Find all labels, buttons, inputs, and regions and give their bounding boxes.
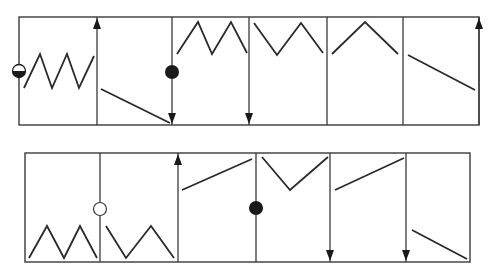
arrow-down-icon [245,113,253,124]
arrow-down-icon [326,250,334,261]
filled-dot-icon [249,201,263,215]
top-row [13,17,484,125]
waveform-zigzag-2-peaks [177,22,247,54]
waveform-diagram [0,0,496,275]
arrow-up-icon [93,18,101,29]
half-filled-dot-icon [13,65,26,78]
arrow-up-icon [174,154,182,165]
waveform-line-rising [335,158,404,190]
arrow-down-icon [402,250,410,261]
waveform-line-falling [412,230,467,259]
half-dot-fill [13,71,26,78]
filled-dot-icon [165,65,179,79]
waveform-line-falling [101,89,170,123]
waveform-zigzag-2-peaks-rising [24,54,94,88]
waveform-w-zigzag [106,226,174,258]
bottom-row [25,153,470,262]
diagram-layer [13,17,484,262]
open-circle-icon [94,203,107,216]
waveform-zigzag-2-peaks-rising [29,226,97,258]
waveform-v-dip [262,157,328,190]
waveform-v-peak [254,23,323,55]
waveform-single-peak [332,22,398,54]
arrow-up-icon [475,18,483,29]
waveform-line-rising [182,159,252,190]
waveform-line-falling [408,55,475,90]
row-frame [25,153,470,262]
